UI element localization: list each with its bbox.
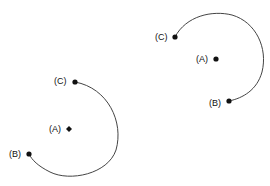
left-point-b bbox=[26, 151, 31, 156]
right-point-c bbox=[172, 34, 177, 39]
diagram-canvas: (C) (A) (B) (C) (A) (B) bbox=[0, 0, 270, 186]
left-point-c bbox=[72, 79, 77, 84]
right-point-b bbox=[226, 98, 231, 103]
left-label-a: (A) bbox=[49, 124, 61, 134]
left-figure: (C) (A) (B) bbox=[9, 76, 118, 176]
left-label-b: (B) bbox=[9, 149, 21, 159]
right-label-b: (B) bbox=[209, 98, 221, 108]
left-label-c: (C) bbox=[54, 76, 67, 86]
right-label-a: (A) bbox=[196, 54, 208, 64]
right-label-c: (C) bbox=[155, 32, 168, 42]
right-figure: (C) (A) (B) bbox=[155, 13, 264, 108]
right-arc-curve bbox=[175, 13, 264, 101]
right-point-a bbox=[213, 56, 218, 61]
left-point-a-diamond-icon bbox=[66, 126, 72, 132]
left-arc-curve bbox=[29, 82, 118, 176]
